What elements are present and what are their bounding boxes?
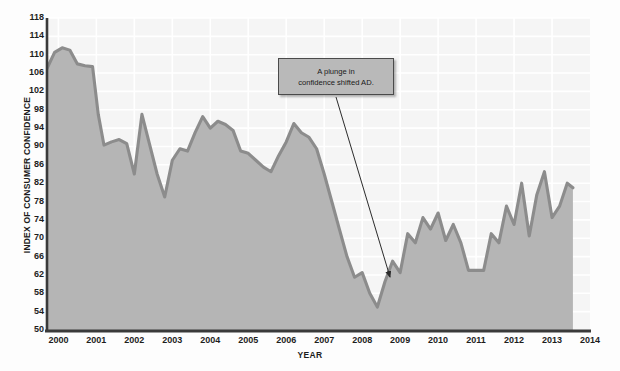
y-axis-title: INDEX OF CONSUMER CONFIDENCE [22,75,32,275]
x-axis-tick-labels: 2000200120022003200420052006200720082009… [0,0,620,371]
annotation-callout-box: A plunge in confidence shifted AD. [278,58,394,95]
x-tick-label: 2014 [566,336,614,345]
consumer-confidence-chart: 1181141101061029894908682787470666258545… [0,0,620,371]
annotation-callout-text: A plunge in confidence shifted AD. [294,66,378,88]
x-axis-title: YEAR [0,350,620,360]
